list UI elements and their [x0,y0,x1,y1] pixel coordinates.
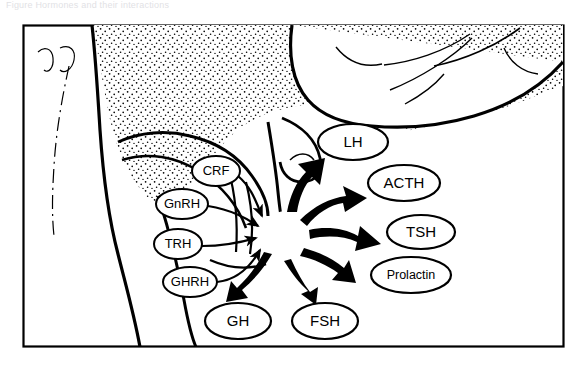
label-trh[interactable]: TRH [154,229,202,259]
anatomical-figure: CRF GnRH TRH GHRH LH ACTH [0,0,584,369]
label-tsh-text: TSH [406,223,436,240]
label-fsh-text: FSH [310,312,340,329]
label-gh-text: GH [227,312,250,329]
label-prolactin[interactable]: Prolactin [371,257,451,293]
label-trh-text: TRH [165,236,192,251]
label-gnrh-text: GnRH [164,196,200,211]
label-lh[interactable]: LH [318,124,388,160]
label-tsh[interactable]: TSH [387,215,455,249]
label-ghrh[interactable]: GHRH [163,267,217,297]
label-crf-text: CRF [203,163,230,178]
label-lh-text: LH [343,133,362,150]
label-acth-text: ACTH [384,174,425,191]
label-crf[interactable]: CRF [192,156,240,186]
label-gh[interactable]: GH [205,303,271,339]
label-ghrh-text: GHRH [171,274,209,289]
label-acth[interactable]: ACTH [368,165,440,201]
label-fsh[interactable]: FSH [292,303,358,339]
label-gnrh[interactable]: GnRH [156,189,208,219]
label-prolactin-text: Prolactin [387,268,436,282]
